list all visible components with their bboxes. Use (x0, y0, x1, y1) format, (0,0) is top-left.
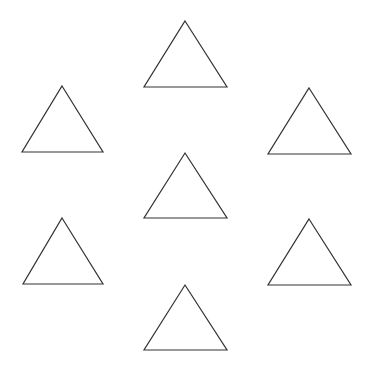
triangle-lower-left (23, 218, 103, 284)
diagram-canvas (0, 0, 373, 372)
triangle-lower-right-icon (268, 219, 351, 285)
triangle-center-icon (144, 153, 227, 218)
triangle-diagram (0, 0, 373, 372)
triangle-upper-right (268, 88, 351, 154)
triangle-upper-left-icon (22, 86, 103, 152)
triangle-bottom (144, 285, 227, 350)
triangle-bottom-icon (144, 285, 227, 350)
triangle-upper-left (22, 86, 103, 152)
triangle-lower-left-icon (23, 218, 103, 284)
triangle-center (144, 153, 227, 218)
triangle-upper-right-icon (268, 88, 351, 154)
triangle-top-icon (144, 21, 227, 87)
triangle-top (144, 21, 227, 87)
triangle-lower-right (268, 219, 351, 285)
